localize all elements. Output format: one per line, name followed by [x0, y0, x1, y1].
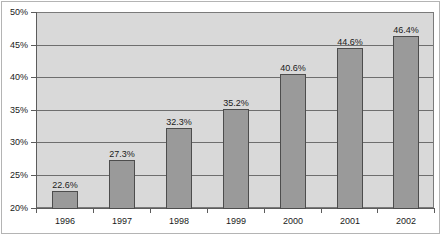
bar-2002 [393, 36, 419, 209]
bar-2000 [280, 74, 306, 209]
x-axis-label-1997: 1997 [97, 216, 147, 227]
bar-1999 [223, 109, 249, 209]
y-axis-label-45: 45% [0, 41, 28, 50]
x-axis-label-1998: 1998 [154, 216, 204, 227]
y-axis-label-30: 30% [0, 138, 28, 147]
y-tick-35 [31, 110, 36, 111]
x-axis-label-2002: 2002 [381, 216, 431, 227]
y-axis-label-20: 20% [0, 204, 28, 213]
y-tick-25 [31, 175, 36, 176]
bar-value-label-1998: 32.3% [154, 117, 204, 127]
y-tick-40 [31, 77, 36, 78]
bar-value-label-2002: 46.4% [381, 25, 431, 35]
x-tick-5 [321, 209, 322, 213]
bar-1996 [52, 191, 78, 209]
x-tick-0 [36, 209, 37, 213]
y-axis-label-40: 40% [0, 73, 28, 82]
y-tick-30 [31, 142, 36, 143]
x-tick-7 [434, 209, 435, 213]
bar-1997 [109, 160, 135, 209]
x-tick-4 [264, 209, 265, 213]
x-tick-1 [93, 209, 94, 213]
y-axis-label-35: 35% [0, 106, 28, 115]
x-axis-label-2000: 2000 [268, 216, 318, 227]
x-tick-6 [377, 209, 378, 213]
y-axis-label-25: 25% [0, 171, 28, 180]
bar-1998 [166, 128, 192, 209]
y-axis-label-50: 50% [0, 8, 28, 17]
y-axis-line [36, 12, 37, 209]
x-tick-3 [207, 209, 208, 213]
x-axis-label-1996: 1996 [40, 216, 90, 227]
bar-value-label-2000: 40.6% [268, 63, 318, 73]
bar-value-label-1996: 22.6% [40, 180, 90, 190]
x-axis-label-2001: 2001 [325, 216, 375, 227]
bar-2001 [337, 48, 363, 209]
bar-value-label-1997: 27.3% [97, 149, 147, 159]
bar-value-label-1999: 35.2% [211, 98, 261, 108]
gridline-40 [37, 77, 433, 78]
x-tick-2 [150, 209, 151, 213]
y-tick-50 [31, 12, 36, 13]
bar-chart: 50% 45% 40% 35% 30% 25% 20% 22.6% 27.3% … [0, 0, 441, 235]
x-axis-label-1999: 1999 [211, 216, 261, 227]
bar-value-label-2001: 44.6% [325, 37, 375, 47]
y-tick-45 [31, 45, 36, 46]
